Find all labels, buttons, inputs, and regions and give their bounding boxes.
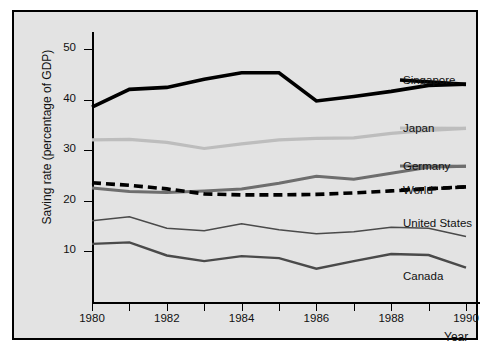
x-axis-title: Year: [444, 330, 468, 344]
y-tick-20: [84, 201, 94, 202]
y-tick-label-10: 10: [36, 243, 76, 255]
x-tick-label-1986: 1986: [304, 312, 330, 324]
y-tick-label-30: 30: [36, 142, 76, 154]
x-axis-line: [92, 302, 480, 304]
x-tick-1989: [429, 304, 430, 311]
y-tick-label-50: 50: [36, 41, 76, 53]
x-tick-1982: [167, 304, 168, 311]
series-label-singapore: Singapore: [403, 74, 455, 86]
y-tick-10: [84, 251, 94, 252]
series-label-japan: Japan: [403, 122, 434, 134]
series-label-canada: Canada: [403, 270, 443, 282]
x-tick-label-1988: 1988: [378, 312, 404, 324]
series-label-world: World: [403, 184, 433, 196]
y-tick-40: [84, 100, 94, 101]
x-tick-1986: [316, 304, 317, 311]
series-label-united-states: United States: [403, 217, 472, 229]
y-tick-label-20: 20: [36, 193, 76, 205]
x-tick-1981: [129, 304, 130, 311]
x-tick-1984: [242, 304, 243, 311]
x-tick-1987: [354, 304, 355, 311]
x-tick-label-1984: 1984: [229, 312, 255, 324]
series-label-germany: Germany: [403, 160, 450, 172]
x-tick-1990: [466, 304, 467, 311]
y-tick-label-40: 40: [36, 92, 76, 104]
chart-series-layer: [14, 12, 494, 352]
chart-panel: Saving rate (percentage of GDP) Year 102…: [12, 10, 478, 340]
y-tick-50: [84, 49, 94, 50]
series-line-canada: [92, 242, 466, 268]
y-tick-30: [84, 150, 94, 151]
x-tick-label-1982: 1982: [154, 312, 180, 324]
x-tick-label-1980: 1980: [79, 312, 105, 324]
x-tick-1988: [391, 304, 392, 311]
y-axis-line: [92, 32, 94, 304]
x-tick-1983: [204, 304, 205, 311]
x-tick-1980: [92, 304, 93, 311]
x-tick-label-1990: 1990: [453, 312, 479, 324]
chart-root: Saving rate (percentage of GDP) Year 102…: [0, 0, 494, 352]
x-tick-1985: [279, 304, 280, 311]
